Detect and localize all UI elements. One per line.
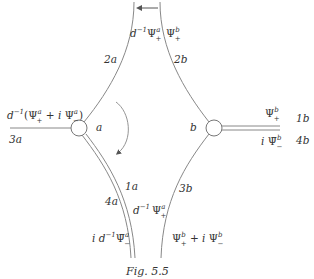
svg-text:i d−1Ψ̄a−: i d−1Ψ̄a− [92, 231, 130, 248]
vertex-b [206, 120, 222, 136]
edge-4a-name: 4a [104, 195, 118, 207]
edge-2b-name: 2b [173, 53, 188, 65]
svg-text:d−1Ψa+: d−1Ψa+ [130, 26, 161, 43]
field-4b: i Ψ̄b− [261, 134, 282, 151]
feynman-like-diagram: a b 2a 2b 3a 1b 4b 1a 4a 3b d−1Ψa+ Ψb+ d… [0, 0, 314, 279]
edge-4b-name: 4b [295, 134, 310, 146]
edge-3a-name: 3a [9, 133, 22, 145]
field-3b: Ψb+ + i Ψb− [172, 231, 223, 248]
edge-3b-name: 3b [179, 182, 193, 194]
field-3a: d−1(Ψa+ + i Ψa−) [7, 108, 83, 125]
vertex-b-label: b [190, 121, 197, 133]
field-2b: Ψb+ [166, 26, 181, 43]
edge-1a-name: 1a [125, 180, 138, 192]
rotation-arrow-icon [116, 102, 128, 153]
figure-caption: Fig. 5.5 [125, 265, 169, 278]
field-1a: d−1Ψa+ [133, 203, 166, 220]
svg-text:i Ψ̄b−: i Ψ̄b− [261, 134, 282, 151]
svg-text:Ψb+ + i Ψb−: Ψb+ + i Ψb− [172, 231, 223, 248]
svg-text:Ψb+: Ψb+ [166, 26, 181, 43]
field-1b: Ψb+ [265, 106, 280, 123]
field-2a: d−1Ψa+ [130, 26, 161, 43]
edge-1b-name: 1b [296, 112, 310, 124]
svg-text:d−1(Ψa+ + i Ψa−): d−1(Ψa+ + i Ψa−) [7, 108, 83, 125]
svg-text:Ψb+: Ψb+ [265, 106, 280, 123]
edge-2a-name: 2a [103, 53, 117, 65]
field-4a: i d−1Ψ̄a− [92, 231, 130, 248]
vertex-a-label: a [96, 121, 102, 133]
svg-text:d−1Ψa+: d−1Ψa+ [133, 203, 166, 220]
